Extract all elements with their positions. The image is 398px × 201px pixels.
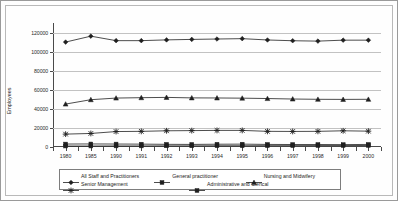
data-point-marker xyxy=(164,38,169,43)
legend-key xyxy=(189,180,205,187)
x-tick-label: 1999 xyxy=(337,153,349,159)
x-tick-mark-minor xyxy=(204,147,205,151)
data-point-marker xyxy=(316,143,320,147)
legend-row: All Staff and PractitionersGeneral pract… xyxy=(63,172,337,179)
y-tick-label: 80000 xyxy=(34,68,48,74)
data-point-marker xyxy=(315,128,321,134)
data-point-marker xyxy=(139,38,144,43)
y-tick-label: 20000 xyxy=(34,125,48,131)
data-point-marker xyxy=(240,142,244,146)
y-tick-label: 40000 xyxy=(34,106,48,112)
data-point-marker xyxy=(165,142,169,146)
chart-legend: All Staff and PractitionersGeneral pract… xyxy=(59,169,341,190)
data-point-marker xyxy=(214,128,220,134)
data-point-marker xyxy=(240,36,245,41)
data-point-marker xyxy=(215,37,220,42)
data-point-marker xyxy=(139,142,143,146)
x-tick-mark-minor xyxy=(230,147,231,151)
x-tick-label: 1995 xyxy=(236,153,248,159)
data-point-marker xyxy=(114,38,119,43)
legend-entry[interactable]: Nursing and Midwifery xyxy=(246,172,337,179)
x-tick-mark-minor xyxy=(179,147,180,151)
data-point-marker xyxy=(89,142,93,146)
series-layer xyxy=(53,23,381,147)
legend-key xyxy=(246,172,262,179)
data-point-marker xyxy=(88,131,94,137)
x-tick-mark-minor xyxy=(255,147,256,151)
x-tick-mark-minor xyxy=(280,147,281,151)
legend-entry[interactable]: General practitioner xyxy=(154,172,245,179)
data-point-marker xyxy=(63,131,69,137)
data-point-marker xyxy=(266,143,270,147)
legend-key-icon xyxy=(189,187,205,194)
data-point-marker xyxy=(366,143,370,147)
data-point-marker xyxy=(195,189,199,193)
data-point-marker xyxy=(291,143,295,147)
data-point-marker xyxy=(290,38,295,43)
data-point-marker xyxy=(341,143,345,147)
legend-key xyxy=(154,172,170,179)
x-tick-label: 1996 xyxy=(262,153,274,159)
data-point-marker xyxy=(215,142,219,146)
data-point-marker xyxy=(239,128,245,134)
legend-label: Nursing and Midwifery xyxy=(264,173,315,179)
y-axis-title: Employees xyxy=(6,87,12,114)
x-tick-label: 1992 xyxy=(161,153,173,159)
x-tick-mark-minor xyxy=(331,147,332,151)
data-point-marker xyxy=(63,40,68,45)
data-point-marker xyxy=(316,39,321,44)
legend-row: Senior ManagementAdministrative and Cler… xyxy=(63,180,337,187)
x-tick-label: 1993 xyxy=(186,153,198,159)
data-point-marker xyxy=(366,38,371,43)
legend-entry[interactable]: Administrative and Clerical xyxy=(189,180,268,187)
data-point-marker xyxy=(290,129,296,135)
data-point-marker xyxy=(68,188,74,194)
legend-entry[interactable]: All Staff and Practitioners xyxy=(63,172,154,179)
x-tick-mark-minor xyxy=(305,147,306,151)
data-point-marker xyxy=(189,37,194,42)
x-tick-mark-minor xyxy=(53,147,54,151)
data-point-marker xyxy=(265,128,271,134)
x-tick-label: 1997 xyxy=(287,153,299,159)
data-point-marker xyxy=(164,128,170,134)
x-tick-label: 2000 xyxy=(363,153,375,159)
legend-key-icon xyxy=(63,187,79,194)
series-3 xyxy=(63,95,371,106)
y-tick-label: 0 xyxy=(45,144,48,150)
plot-area: 020000400006000080000100000120000 198019… xyxy=(53,23,381,147)
data-point-marker xyxy=(114,142,118,146)
legend-label: Senior Management xyxy=(81,181,128,187)
data-point-marker xyxy=(365,128,371,134)
legend-entry[interactable]: Senior Management xyxy=(63,180,189,187)
series-4 xyxy=(63,128,372,138)
legend-key xyxy=(63,172,79,179)
data-point-marker xyxy=(89,34,94,39)
y-tick-label: 120000 xyxy=(31,30,48,36)
x-tick-mark-minor xyxy=(381,147,382,151)
data-point-marker xyxy=(340,128,346,134)
legend-label: General practitioner xyxy=(172,173,218,179)
legend-key xyxy=(63,180,79,187)
x-tick-label: 1991 xyxy=(136,153,148,159)
data-point-marker xyxy=(138,128,144,134)
x-tick-mark-minor xyxy=(78,147,79,151)
x-tick-mark-minor xyxy=(129,147,130,151)
data-point-marker xyxy=(113,129,119,135)
y-tick-label: 100000 xyxy=(31,49,48,55)
x-tick-label: 1990 xyxy=(110,153,122,159)
legend-label: Administrative and Clerical xyxy=(207,181,268,187)
data-point-marker xyxy=(64,142,68,146)
data-point-marker xyxy=(341,38,346,43)
series-1 xyxy=(63,34,370,45)
chart-figure: Employees 020000400006000080000100000120… xyxy=(0,0,398,201)
x-tick-mark-minor xyxy=(103,147,104,151)
x-tick-label: 1980 xyxy=(60,153,72,159)
x-tick-label: 1998 xyxy=(312,153,324,159)
x-tick-mark-minor xyxy=(154,147,155,151)
data-point-marker xyxy=(190,143,194,147)
x-tick-label: 1985 xyxy=(85,153,97,159)
y-tick-label: 60000 xyxy=(34,87,48,93)
x-tick-label: 1994 xyxy=(211,153,223,159)
data-point-marker xyxy=(189,128,195,134)
legend-label: All Staff and Practitioners xyxy=(81,173,139,179)
